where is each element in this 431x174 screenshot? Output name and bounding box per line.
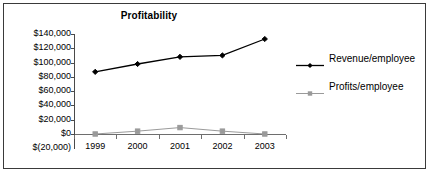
data-point-marker [220,129,224,133]
chart-canvas: Profitability $140,000$120,000$100,000$8… [4,4,427,170]
data-point-marker [262,36,267,41]
data-point-marker [135,61,140,66]
legend-label: Revenue/employee [329,53,415,64]
legend-label: Profits/employee [329,81,403,92]
legend-diamond-marker-icon [296,57,324,68]
data-point-marker [93,69,98,74]
legend-square-marker-icon [296,85,324,96]
data-point-marker [135,129,139,133]
series-2 [93,125,267,136]
data-point-marker [177,54,182,59]
chart-legend: Revenue/employeeProfits/employee [296,50,426,106]
data-point-marker [220,53,225,58]
chart-frame: Profitability $140,000$120,000$100,000$8… [3,3,426,169]
series-1 [93,36,268,74]
data-point-marker [178,125,182,129]
legend-item[interactable]: Profits/employee [296,78,426,106]
data-point-marker [93,132,97,136]
data-point-marker [263,132,267,136]
legend-item[interactable]: Revenue/employee [296,50,426,78]
